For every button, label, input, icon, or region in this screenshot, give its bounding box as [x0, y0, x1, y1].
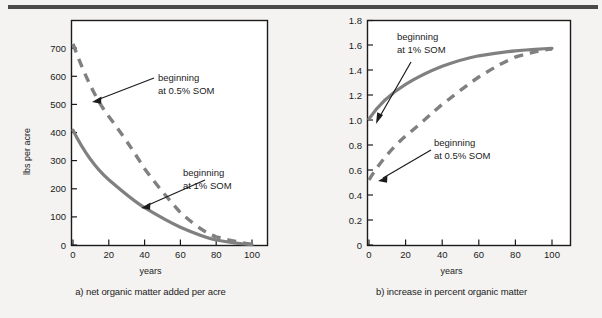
chart-caption-a: a) net organic matter added per acre	[0, 286, 301, 297]
y-tick-label: 0.6	[349, 165, 362, 176]
y-tick-label: 1.2	[349, 90, 362, 101]
x-tick-label: 0	[366, 249, 371, 260]
annotation-line-2: at 1% SOM	[397, 44, 446, 55]
y-tick-label: 1.0	[349, 115, 362, 126]
y-tick-label: 0.8	[349, 140, 362, 151]
annotation-line-2: at 0.5% SOM	[434, 150, 491, 161]
chart-panel-b: 0 0.2 0.4 0.6 0.8 1.0 1.2 1.4 1.6 1.8	[301, 0, 602, 318]
annotation-line-1: beginning	[158, 72, 199, 83]
y-axis-labels-b: 0 0.2 0.4 0.6 0.8 1.0 1.2 1.4 1.6 1.8	[349, 15, 362, 251]
annotation-line-2: at 0.5% SOM	[158, 85, 215, 96]
y-tick-label: 0.4	[349, 190, 362, 201]
chart-caption-b: b) increase in percent organic matter	[301, 286, 602, 297]
plot-frame-a	[72, 21, 268, 246]
annotation-line-2: at 1% SOM	[183, 180, 232, 191]
y-tick-label: 200	[50, 183, 66, 194]
annotation-line-1: beginning	[397, 31, 438, 42]
y-tick-label: 600	[50, 71, 66, 82]
y-tick-label: 1.4	[349, 65, 362, 76]
x-axis-title-a: years	[0, 266, 301, 276]
y-tick-label: 0.2	[349, 215, 362, 226]
x-tick-label: 60	[474, 249, 485, 260]
x-tick-label: 100	[244, 249, 260, 260]
figure-root: 0 100 200 300 400 500 600 700 0	[0, 0, 602, 318]
y-tick-label: 0	[357, 240, 362, 251]
chart-a-plot: 0 100 200 300 400 500 600 700 0	[0, 0, 301, 270]
chart-panel-a: 0 100 200 300 400 500 600 700 0	[0, 0, 301, 318]
y-tick-label: 300	[50, 155, 66, 166]
x-tick-label: 0	[70, 249, 75, 260]
x-axis-labels-a: 0 20 40 60 80 100	[70, 249, 260, 260]
y-tick-label: 0	[61, 240, 66, 251]
y-axis-title-a: lbs per acre	[22, 128, 32, 175]
annotation-line-1: beginning	[434, 137, 475, 148]
x-tick-label: 20	[400, 249, 411, 260]
x-tick-label: 80	[510, 249, 521, 260]
x-axis-title-b: years	[301, 266, 602, 276]
y-tick-label: 1.6	[349, 40, 362, 51]
chart-b-plot: 0 0.2 0.4 0.6 0.8 1.0 1.2 1.4 1.6 1.8	[301, 0, 602, 270]
x-tick-label: 100	[544, 249, 560, 260]
x-tick-label: 40	[139, 249, 150, 260]
y-axis-labels-a: 0 100 200 300 400 500 600 700	[50, 43, 66, 251]
x-tick-label: 80	[211, 249, 222, 260]
x-tick-label: 20	[104, 249, 115, 260]
annotation-line-1: beginning	[183, 167, 224, 178]
y-tick-label: 100	[50, 211, 66, 222]
y-tick-label: 700	[50, 43, 66, 54]
y-tick-label: 1.8	[349, 15, 362, 26]
x-tick-label: 60	[175, 249, 186, 260]
x-tick-label: 40	[437, 249, 448, 260]
x-axis-labels-b: 0 20 40 60 80 100	[366, 249, 560, 260]
y-tick-label: 400	[50, 127, 66, 138]
y-tick-label: 500	[50, 99, 66, 110]
